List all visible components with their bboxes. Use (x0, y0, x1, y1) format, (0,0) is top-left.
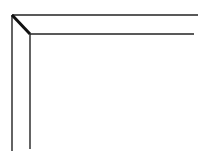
miter-line (12, 15, 30, 34)
corner-diagram (0, 0, 203, 155)
